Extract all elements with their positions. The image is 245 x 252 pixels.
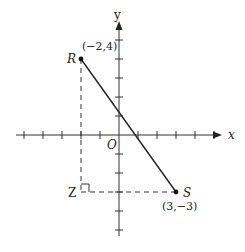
point-z-label: Z — [68, 186, 76, 200]
origin-label: O — [107, 138, 117, 152]
right-angle-marker — [81, 184, 89, 192]
segment-rs — [81, 59, 176, 192]
x-axis-arrow-icon — [213, 132, 222, 139]
point-r-label: R — [66, 52, 76, 66]
point-r-coord-label: (−2,4) — [82, 40, 117, 53]
y-axis — [115, 28, 123, 236]
coordinate-plane-diagram: y x O R (−2,4) S (3,−3) Z — [0, 0, 245, 252]
x-axis-label: x — [228, 128, 235, 142]
point-s-label: S — [183, 186, 191, 200]
y-axis-arrow-icon — [116, 21, 123, 30]
point-s-coord-label: (3,−3) — [162, 200, 197, 213]
y-axis-label: y — [113, 8, 121, 22]
point-s — [174, 190, 179, 195]
point-r — [79, 57, 84, 62]
